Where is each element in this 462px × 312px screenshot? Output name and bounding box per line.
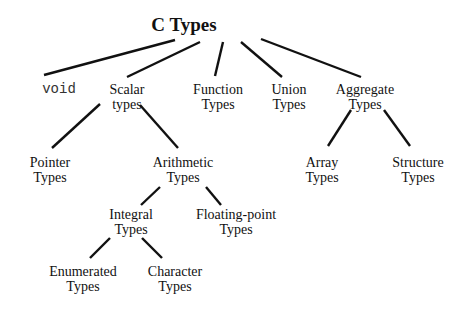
node-label-line2: Types — [148, 279, 202, 294]
edge-root-void — [44, 40, 175, 75]
edge-scalar-pointer — [52, 104, 100, 148]
node-label-line1: Scalar — [110, 82, 145, 97]
node-array-types: Array Types — [305, 155, 338, 185]
node-label-line2: types — [110, 97, 145, 112]
node-label-line1: Arithmetic — [153, 155, 214, 170]
node-integral-types: Integral Types — [109, 207, 153, 237]
node-label-line2: Types — [392, 170, 443, 185]
node-label: void — [42, 82, 76, 97]
edge-integral-character — [142, 238, 162, 258]
node-label-line1: Union — [272, 82, 307, 97]
node-label-line2: Types — [336, 97, 394, 112]
node-label-line2: Types — [305, 170, 338, 185]
node-label-line2: Types — [153, 170, 214, 185]
edge-scalar-arithmetic — [140, 105, 178, 148]
node-pointer-types: Pointer Types — [30, 155, 70, 185]
node-character-types: Character Types — [148, 264, 202, 294]
node-union-types: Union Types — [272, 82, 307, 112]
node-function-types: Function Types — [193, 82, 243, 112]
node-label-line1: Function — [193, 82, 243, 97]
node-scalar-types: Scalar types — [110, 82, 145, 112]
node-label-line2: Types — [49, 279, 117, 294]
node-label-line1: Floating-point — [196, 207, 276, 222]
node-arithmetic-types: Arithmetic Types — [153, 155, 214, 185]
node-c-types: C Types — [151, 15, 216, 35]
node-label-line2: Types — [30, 170, 70, 185]
edge-integral-enumerated — [90, 238, 110, 258]
node-label-line1: Array — [305, 155, 338, 170]
node-label-line1: Structure — [392, 155, 443, 170]
edge-root-union — [241, 42, 282, 77]
node-aggregate-types: Aggregate Types — [336, 82, 394, 112]
node-label-line1: Aggregate — [336, 82, 394, 97]
node-structure-types: Structure Types — [392, 155, 443, 185]
node-floating-point-types: Floating-point Types — [196, 207, 276, 237]
node-label-line1: Character — [148, 264, 202, 279]
node-label-line1: Integral — [109, 207, 153, 222]
edge-aggregate-array — [328, 110, 351, 146]
node-label-line2: Types — [196, 222, 276, 237]
edge-root-function — [215, 42, 223, 76]
node-label-line1: Enumerated — [49, 264, 117, 279]
node-void: void — [42, 82, 76, 97]
node-label-line1: Pointer — [30, 155, 70, 170]
node-label-line2: Types — [109, 222, 153, 237]
edge-arithmetic-integral — [141, 187, 160, 205]
edge-root-scalar — [127, 42, 200, 77]
node-enumerated-types: Enumerated Types — [49, 264, 117, 294]
node-label-line2: Types — [193, 97, 243, 112]
node-label: C Types — [151, 15, 216, 35]
node-label-line2: Types — [272, 97, 307, 112]
edge-aggregate-structure — [384, 110, 410, 146]
edge-arithmetic-floating — [206, 187, 221, 205]
